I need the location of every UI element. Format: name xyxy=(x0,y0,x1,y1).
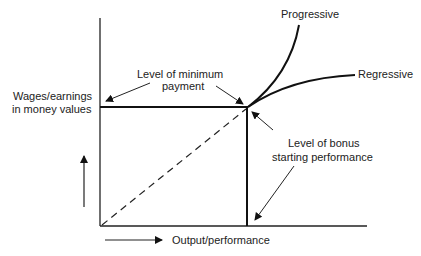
bonus-start-label-line1: Level of bonus xyxy=(288,137,360,150)
y-axis-label-line2: in money values xyxy=(12,103,92,116)
bonus-start-arrow-up xyxy=(252,112,273,130)
diagram-canvas xyxy=(0,0,421,256)
regressive-curve xyxy=(248,75,355,107)
progressive-label: Progressive xyxy=(281,8,339,21)
x-axis-label: Output/performance xyxy=(172,234,270,247)
progressive-curve xyxy=(248,25,299,107)
min-payment-arrow-right xyxy=(216,86,243,104)
min-payment-label-line2: payment xyxy=(162,80,204,93)
bonus-start-label-line2: starting performance xyxy=(272,151,373,164)
min-payment-arrow-left xyxy=(106,83,150,101)
y-axis-label-line1: Wages/earnings xyxy=(13,90,92,103)
proportional-dashed-line xyxy=(102,109,246,225)
regressive-label: Regressive xyxy=(358,68,413,81)
bonus-start-arrow-down xyxy=(255,166,294,220)
